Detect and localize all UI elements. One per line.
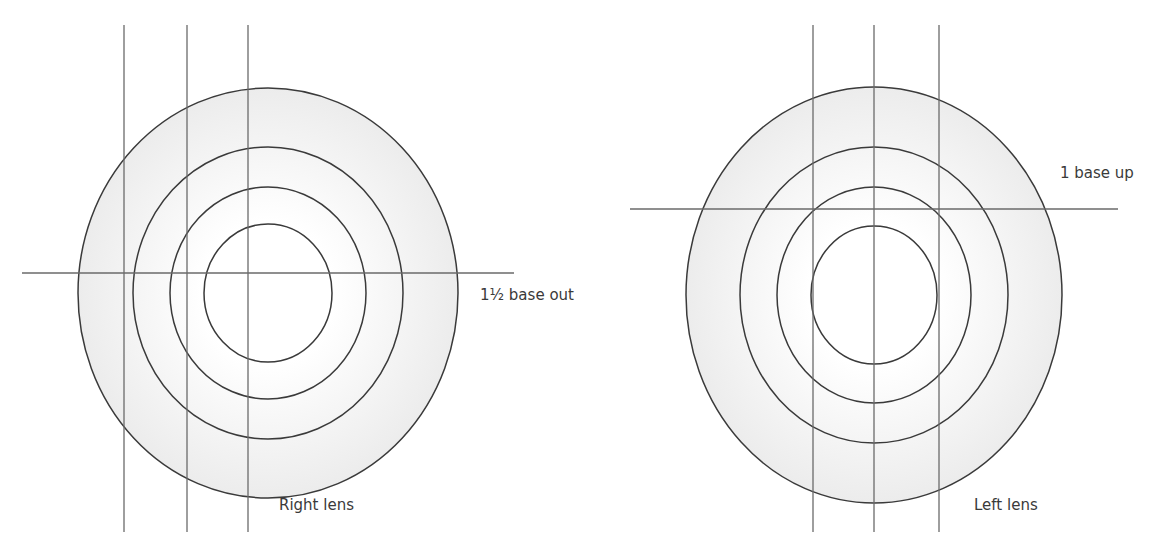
left-lens-label: Left lens xyxy=(974,496,1038,514)
right-lens-label: Right lens xyxy=(279,496,354,514)
left-lens-prism-label: 1 base up xyxy=(1060,164,1134,182)
right-lens-prism-label: 1½ base out xyxy=(480,286,574,304)
prism-lens-diagram xyxy=(0,0,1166,551)
right-lens xyxy=(22,25,514,532)
left-lens xyxy=(630,25,1118,532)
lens-ring-1 xyxy=(78,88,458,498)
